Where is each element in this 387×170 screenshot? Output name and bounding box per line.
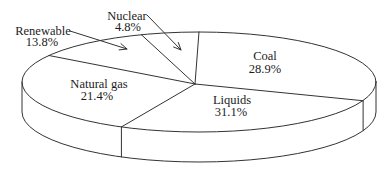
slice-value-natural-gas: 21.4% <box>81 89 113 103</box>
slice-value-renewable: 13.8% <box>26 35 58 49</box>
pie-chart-canvas: Coal 28.9% Liquids 31.1% Natural gas 21.… <box>0 0 387 170</box>
slice-labels: Coal 28.9% Liquids 31.1% Natural gas 21.… <box>15 9 281 119</box>
slice-divider <box>121 84 195 127</box>
pie-chart-figure: Coal 28.9% Liquids 31.1% Natural gas 21.… <box>0 0 387 170</box>
slice-value-coal: 28.9% <box>249 62 281 76</box>
slice-divider <box>141 35 195 84</box>
slice-value-nuclear: 4.8% <box>115 20 141 34</box>
slice-divider <box>195 32 199 84</box>
pie-side-wall <box>22 82 376 162</box>
slice-label-coal: Coal <box>253 49 277 63</box>
slice-value-liquids: 31.1% <box>215 105 247 119</box>
